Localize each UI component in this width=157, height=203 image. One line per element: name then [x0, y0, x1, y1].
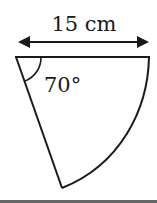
sector-shape	[15, 57, 150, 188]
angle-label: 70°	[44, 73, 81, 97]
arrowhead-right-icon	[137, 36, 149, 48]
radius-label: 15 cm	[51, 12, 116, 36]
bottom-rule	[0, 200, 157, 203]
angle-arc	[25, 57, 41, 81]
dimension-arrow	[18, 36, 149, 48]
sector-diagram: 15 cm 70°	[0, 0, 157, 203]
arrowhead-left-icon	[18, 36, 30, 48]
